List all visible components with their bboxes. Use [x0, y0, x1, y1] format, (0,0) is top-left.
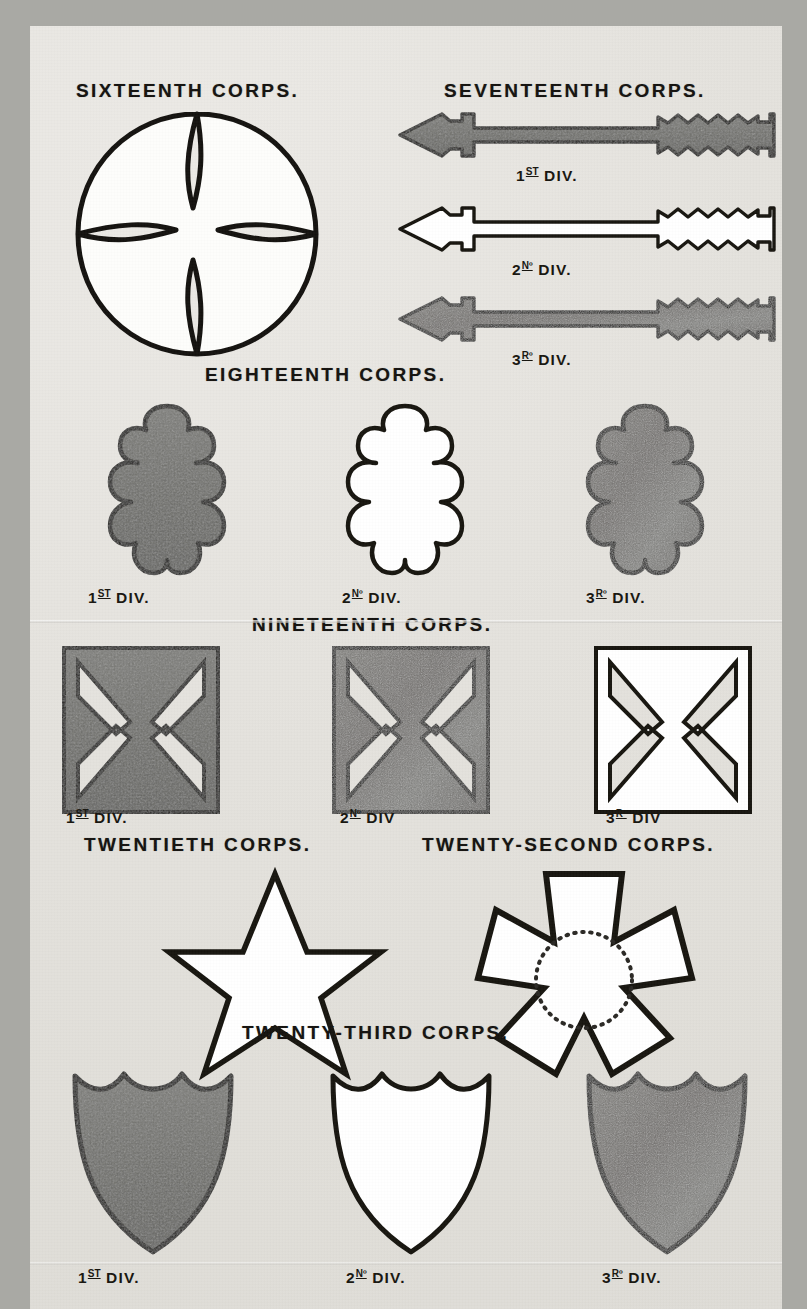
div-label-twenty-third-1st: 1ST DIV. [78, 1268, 140, 1287]
div-label-seventeenth-1st: 1ST DIV. [516, 166, 578, 185]
badge-eighteenth-2nd-div [310, 398, 500, 588]
pentagonal-cross-icon [474, 868, 694, 1080]
div-label-nineteenth-3rd: 3Rº DIV [606, 808, 662, 827]
corps-title-twentieth: TWENTIETH CORPS. [84, 834, 311, 856]
badge-eighteenth-3rd-div [550, 398, 740, 588]
corps-title-twenty-second: TWENTY-SECOND CORPS. [422, 834, 715, 856]
badge-sixteenth-corps [72, 108, 322, 360]
paper-sheet: SIXTEENTH CORPS. SEVENTEENTH CORPS. 1ST … [30, 26, 782, 1309]
badge-seventeenth-2nd-div [396, 204, 778, 254]
badge-twentieth-corps [162, 868, 388, 1080]
div-label-twenty-third-2nd: 2Nº DIV. [346, 1268, 406, 1287]
corps-badge-plate: SIXTEENTH CORPS. SEVENTEENTH CORPS. 1ST … [0, 0, 807, 1309]
div-label-seventeenth-2nd: 2Nº DIV. [512, 260, 572, 279]
div-label-eighteenth-1st: 1ST DIV. [88, 588, 150, 607]
badge-twenty-second-corps [474, 868, 694, 1080]
five-pointed-star-icon [162, 868, 388, 1080]
arrow-icon-mottled [396, 294, 778, 344]
badge-seventeenth-1st-div [396, 110, 778, 160]
corps-title-nineteenth: NINETEENTH CORPS. [252, 614, 492, 636]
arrow-icon-light [396, 204, 778, 254]
div-label-nineteenth-1st: 1ST DIV. [66, 808, 128, 827]
badge-twenty-third-2nd-div [326, 1060, 496, 1258]
div-label-twenty-third-3rd: 3Rº DIV. [602, 1268, 662, 1287]
badge-nineteenth-2nd-div [326, 642, 496, 818]
corps-title-seventeenth: SEVENTEENTH CORPS. [444, 80, 706, 102]
plate-seam-upper [30, 620, 782, 623]
shield-icon-light [326, 1060, 496, 1258]
div-label-eighteenth-2nd: 2Nº DIV. [342, 588, 402, 607]
corps-title-eighteenth: EIGHTEENTH CORPS. [205, 364, 446, 386]
badge-twenty-third-3rd-div [582, 1060, 752, 1258]
trefoil-cross-icon-light [310, 398, 500, 588]
div-label-seventeenth-3rd: 3Rº DIV. [512, 350, 572, 369]
badge-seventeenth-3rd-div [396, 294, 778, 344]
shield-icon-dark [68, 1060, 238, 1258]
badge-nineteenth-1st-div [56, 642, 226, 818]
badge-twenty-third-1st-div [68, 1060, 238, 1258]
sixteenth-corps-circle-icon [72, 108, 322, 360]
shield-icon-mottled [582, 1060, 752, 1258]
fan-cross-icon-mottled [326, 642, 496, 818]
corps-title-twenty-third: TWENTY-THIRD CORPS. [242, 1022, 509, 1044]
trefoil-cross-icon-mottled [550, 398, 740, 588]
fan-cross-icon-light [588, 642, 758, 818]
div-label-eighteenth-3rd: 3Rº DIV. [586, 588, 646, 607]
plate-seam-lower [30, 1262, 782, 1265]
corps-title-sixteenth: SIXTEENTH CORPS. [76, 80, 299, 102]
fan-cross-icon-dark [56, 642, 226, 818]
arrow-icon-dark [396, 110, 778, 160]
badge-eighteenth-1st-div [72, 398, 262, 588]
badge-nineteenth-3rd-div [588, 642, 758, 818]
div-label-nineteenth-2nd: 2Nº DIV [340, 808, 396, 827]
trefoil-cross-icon-dark [72, 398, 262, 588]
